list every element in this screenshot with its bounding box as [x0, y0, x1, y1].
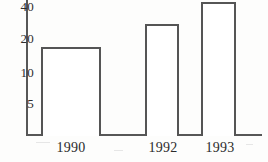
bar-chart: 40 20 10 5 1990 1992 1993 — [0, 0, 268, 162]
scan-artifact — [246, 144, 253, 145]
x-axis-tick-label-1990: 1990 — [44, 140, 98, 156]
bar-1990 — [41, 47, 101, 136]
y-axis-tick-label-20: 20 — [8, 32, 34, 45]
y-axis-tick-label-5: 5 — [8, 97, 34, 110]
scan-artifact — [114, 150, 123, 151]
bar-1993 — [201, 2, 236, 136]
bar-1992 — [145, 24, 179, 136]
x-axis-tick-label-1993: 1993 — [197, 140, 243, 156]
x-axis-tick-label-1992: 1992 — [140, 140, 186, 156]
y-axis-tick-label-40: 40 — [8, 0, 34, 13]
y-axis-tick-label-10: 10 — [8, 66, 34, 79]
